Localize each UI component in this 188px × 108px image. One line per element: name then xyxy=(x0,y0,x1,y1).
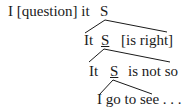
row4-text: I go to see . . . xyxy=(97,92,182,107)
row3-prefix: It xyxy=(89,64,98,79)
row3-node-s: S xyxy=(110,64,118,79)
row2-node-s: S xyxy=(101,33,109,48)
row2-prefix: It xyxy=(84,33,93,48)
row3-suffix: is not so xyxy=(128,64,178,79)
syntax-tree-diagram: I [question] it S It S [is right] It S i… xyxy=(0,0,188,108)
row1-prefix: I [question] it xyxy=(8,4,90,19)
branch-2 xyxy=(89,49,170,62)
row1-node-s: S xyxy=(100,4,108,19)
row2-suffix: [is right] xyxy=(121,33,173,48)
